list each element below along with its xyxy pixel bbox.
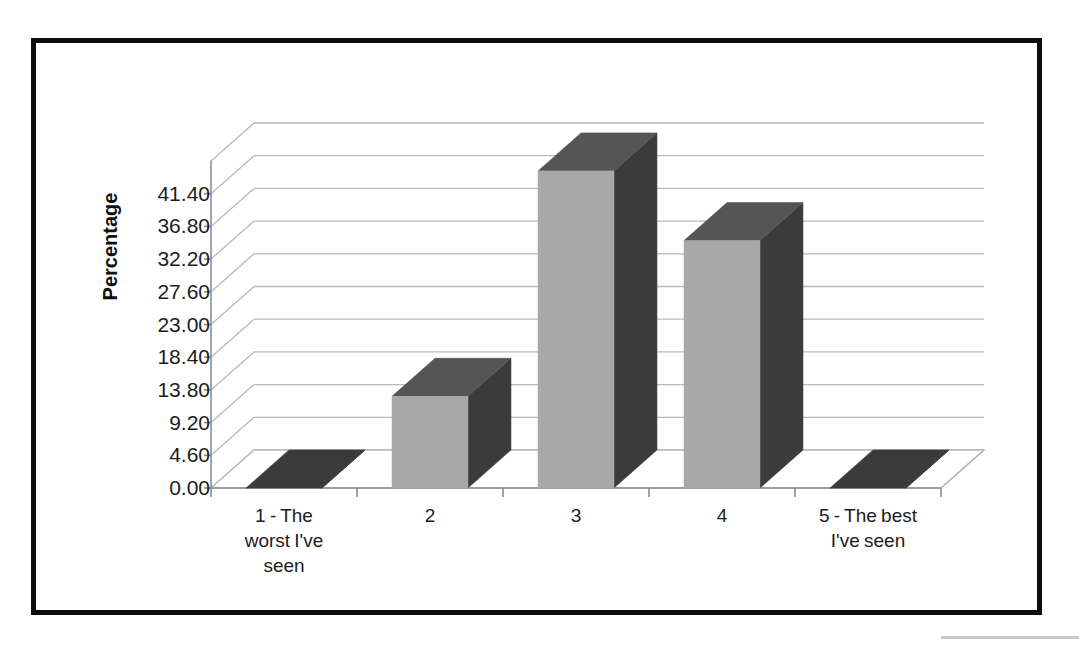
x-axis-tick-label: 1 - Theworst I'veseen xyxy=(199,503,369,578)
y-axis-tick-label: 32.20 xyxy=(157,248,210,269)
x-axis-tick-label-line: worst I've xyxy=(199,528,369,553)
y-axis-tick-label: 4.60 xyxy=(169,444,210,465)
x-axis-tick-label-line: 4 xyxy=(637,503,807,528)
y-axis-tick-label: 36.80 xyxy=(157,215,210,236)
x-axis-tick-labels: 1 - Theworst I'veseen2345 - The bestI've… xyxy=(36,503,1047,613)
page-artifact-line xyxy=(941,636,1079,639)
y-axis-tick-label: 0.00 xyxy=(169,477,210,498)
x-axis-tick-label-line: 1 - The xyxy=(199,503,369,528)
y-axis-tick-label: 23.00 xyxy=(157,314,210,335)
x-axis-tick-label: 2 xyxy=(345,503,515,528)
bar-column xyxy=(684,203,803,488)
bar-column xyxy=(538,133,657,488)
x-axis-tick-label-line: 5 - The best xyxy=(783,503,953,528)
y-axis-title: Percentage xyxy=(99,167,122,327)
y-axis-tick-label: 41.40 xyxy=(157,183,210,204)
y-axis-tick-label: 27.60 xyxy=(157,281,210,302)
y-axis-tick-label: 9.20 xyxy=(169,412,210,433)
bars xyxy=(246,133,949,488)
y-axis-tick-label: 13.80 xyxy=(157,379,210,400)
y-axis-tick-label: 18.40 xyxy=(157,346,210,367)
x-axis-tick-label-line: seen xyxy=(199,553,369,578)
x-axis-tick-label: 5 - The bestI've seen xyxy=(783,503,953,553)
x-axis-tick-label-line: 3 xyxy=(491,503,661,528)
chart-title-strip xyxy=(0,0,1079,9)
x-axis-tick-label-line: I've seen xyxy=(783,528,953,553)
x-axis-tick-label: 3 xyxy=(491,503,661,528)
chart-frame: 0.004.609.2013.8018.4023.0027.6032.2036.… xyxy=(31,38,1042,615)
x-axis-tick-label-line: 2 xyxy=(345,503,515,528)
x-axis-tick-label: 4 xyxy=(637,503,807,528)
